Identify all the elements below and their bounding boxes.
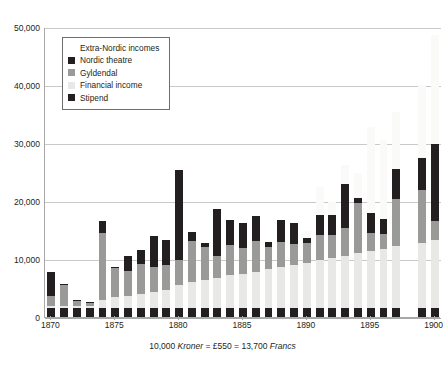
bar-segment-stipend [418, 308, 426, 317]
bar-segment-extra [303, 231, 311, 238]
bar-segment-financial [341, 256, 349, 308]
bar-1882 [201, 243, 209, 317]
bar-segment-financial [316, 260, 324, 308]
x-axis: 1870187518801885189018951900 [44, 320, 440, 334]
legend-label: Gyldendal [80, 69, 117, 77]
bar-segment-theatre [418, 158, 426, 190]
bar-segment-theatre [175, 170, 183, 260]
bar-1879 [162, 240, 170, 317]
bar-1886 [252, 216, 260, 317]
bar-segment-theatre [277, 220, 285, 241]
y-tick-label: 10,000 [0, 255, 40, 265]
bar-segment-gyldendal [380, 234, 388, 249]
bar-segment-stipend [73, 308, 81, 317]
legend-label: Nordic theatre [80, 56, 132, 64]
legend-item: Gyldendal [68, 67, 163, 79]
bar-1885 [239, 223, 247, 317]
bar-1872 [73, 300, 81, 317]
bar-segment-theatre [188, 232, 196, 241]
bar-segment-gyldendal [47, 296, 55, 306]
bar-segment-gyldendal [316, 235, 324, 260]
bar-1883 [213, 209, 221, 317]
x-tick-label: 1875 [105, 320, 124, 330]
bar-segment-theatre [380, 219, 388, 234]
bar-segment-financial [392, 246, 400, 307]
bar-segment-theatre [99, 221, 107, 233]
bar-segment-extra [380, 140, 388, 219]
bar-segment-stipend [124, 308, 132, 317]
bar-1893 [341, 165, 349, 317]
bar-segment-stipend [213, 308, 221, 317]
bar-segment-gyldendal [201, 247, 209, 280]
bar-segment-gyldendal [290, 244, 298, 265]
bar-segment-gyldendal [150, 267, 158, 292]
bar-segment-stipend [47, 308, 55, 317]
bar-segment-theatre [137, 250, 145, 264]
bar-1894 [354, 173, 362, 317]
bar-1874 [99, 221, 107, 317]
bar-segment-theatre [367, 213, 375, 233]
bar-segment-gyldendal [303, 243, 311, 262]
legend-swatch-icon [68, 94, 75, 101]
bar-segment-theatre [290, 223, 298, 244]
bar-1892 [328, 202, 336, 317]
bar-segment-financial [252, 272, 260, 308]
bar-1880 [175, 170, 183, 317]
bar-segment-gyldendal [124, 271, 132, 296]
bar-1878 [150, 236, 158, 317]
caption-currency-kroner: Kroner [178, 341, 204, 351]
bar-segment-gyldendal [137, 264, 145, 294]
bar-segment-financial [277, 267, 285, 308]
bar-segment-financial [111, 297, 119, 308]
bar-1884 [226, 220, 234, 317]
bar-segment-stipend [86, 308, 94, 317]
bar-segment-financial [239, 274, 247, 308]
bar-segment-theatre [226, 220, 234, 245]
bar-segment-stipend [201, 308, 209, 317]
bar-segment-gyldendal [239, 248, 247, 274]
bar-segment-stipend [99, 308, 107, 317]
caption-amount: 10,000 [149, 341, 177, 351]
bar-1877 [137, 250, 145, 317]
bar-segment-extra [418, 85, 426, 158]
bar-1889 [290, 223, 298, 317]
x-tick-label: 1885 [233, 320, 252, 330]
bar-segment-stipend [354, 308, 362, 317]
bar-segment-theatre [124, 256, 132, 271]
bar-segment-financial [367, 251, 375, 308]
bar-segment-theatre [252, 216, 260, 241]
bar-segment-extra [392, 112, 400, 169]
bar-segment-theatre [150, 236, 158, 267]
bar-segment-financial [265, 269, 273, 307]
bar-1887 [265, 242, 273, 317]
caption-equals: = £550 = 13,700 [203, 341, 270, 351]
bar-1900 [431, 35, 439, 317]
bar-segment-financial [303, 263, 311, 308]
legend-label: Extra-Nordic incomes [80, 44, 159, 52]
bar-segment-gyldendal [213, 256, 221, 277]
y-tick-label: 50,000 [0, 23, 40, 33]
bar-segment-stipend [316, 308, 324, 317]
chart-figure: 010,00020,00030,00040,00050,000 18701875… [0, 0, 445, 371]
bar-segment-financial [137, 294, 145, 308]
bar-1876 [124, 256, 132, 317]
bar-segment-financial [162, 290, 170, 307]
bar-segment-financial [290, 265, 298, 308]
bar-segment-gyldendal [367, 233, 375, 251]
x-tick-label: 1880 [169, 320, 188, 330]
bar-segment-gyldendal [265, 247, 273, 269]
bar-1870 [47, 272, 55, 317]
x-tick-label: 1870 [41, 320, 60, 330]
bar-segment-stipend [265, 308, 273, 317]
bar-segment-extra [354, 173, 362, 198]
gridline-0 [45, 318, 441, 319]
bar-segment-gyldendal [277, 242, 285, 268]
legend-item: Nordic theatre [68, 54, 163, 66]
bar-segment-financial [213, 278, 221, 308]
bar-segment-gyldendal [431, 221, 439, 241]
bar-segment-stipend [303, 308, 311, 317]
bar-segment-financial [99, 300, 107, 308]
x-tick-label: 1900 [424, 320, 443, 330]
legend-swatch-icon [68, 45, 75, 52]
bar-segment-financial [226, 275, 234, 307]
